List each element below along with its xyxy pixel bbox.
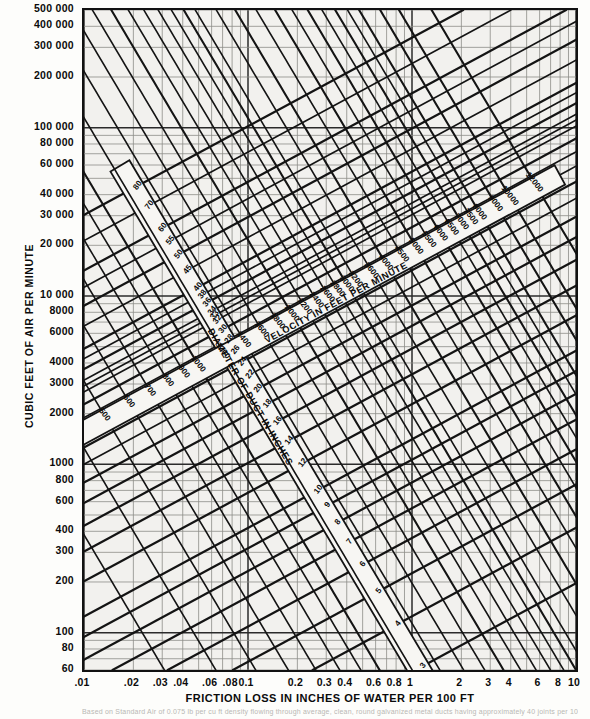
- y-axis-tick: 30 000: [40, 208, 74, 220]
- chart-figure: 6080100200300400600800100020003000400060…: [0, 0, 590, 719]
- x-axis-tick: 0.2: [288, 676, 303, 688]
- y-axis-tick: 400 000: [34, 18, 74, 30]
- x-axis-tick: .03: [153, 676, 168, 688]
- y-axis-tick: 500 000: [34, 2, 74, 14]
- nomograph-svg: 3456789101214161820222426283032333436384…: [84, 10, 576, 670]
- y-axis-tick: 2000: [49, 406, 74, 418]
- y-axis-title: CUBIC FEET OF AIR PER MINUTE: [23, 211, 35, 461]
- x-axis-tick: .08: [222, 676, 237, 688]
- y-axis-tick: 40 000: [40, 187, 74, 199]
- y-axis-tick: 60: [62, 662, 74, 674]
- y-axis-tick: 80: [62, 641, 74, 653]
- x-axis-tick: .01: [74, 676, 89, 688]
- y-axis-tick: 6000: [49, 325, 74, 337]
- y-axis-tick: 200: [56, 574, 74, 586]
- x-axis-tick: 0.3: [317, 676, 332, 688]
- x-axis-tick: 3: [485, 676, 491, 688]
- y-axis-tick: 300 000: [34, 39, 74, 51]
- x-axis-tick: .06: [202, 676, 217, 688]
- x-axis-tick: .04: [173, 676, 188, 688]
- y-axis-tick: 3000: [49, 376, 74, 388]
- y-axis-tick: 4000: [49, 355, 74, 367]
- x-axis-tick: 4: [506, 676, 512, 688]
- x-axis-tick: .02: [124, 676, 139, 688]
- y-axis-tick: 800: [56, 473, 74, 485]
- x-axis-tick: 6: [535, 676, 541, 688]
- plot-canvas: 3456789101214161820222426283032333436384…: [84, 10, 576, 670]
- y-axis-tick: 20 000: [40, 237, 74, 249]
- y-axis-tick: 8000: [49, 304, 74, 316]
- y-axis-tick: 100 000: [34, 120, 74, 132]
- x-axis-tick: 0.6: [366, 676, 381, 688]
- x-axis-tick: 0.1: [238, 676, 253, 688]
- x-axis-tick: 8: [555, 676, 561, 688]
- x-axis-title: FRICTION LOSS IN INCHES OF WATER PER 100…: [82, 692, 578, 704]
- y-axis-tick: 80 000: [40, 136, 74, 148]
- x-axis-tick: 1: [407, 676, 413, 688]
- x-axis-tick: 0.8: [386, 676, 401, 688]
- y-axis-tick: 1000: [49, 456, 74, 468]
- y-axis-tick: 60 000: [40, 157, 74, 169]
- y-axis-tick: 200 000: [34, 69, 74, 81]
- chart-footnote: Based on Standard Air of 0.075 lb per cu…: [82, 708, 578, 718]
- y-axis-tick: 400: [56, 523, 74, 535]
- y-axis-tick-labels: 6080100200300400600800100020003000400060…: [0, 0, 78, 719]
- x-axis-tick: 0.4: [337, 676, 352, 688]
- y-axis-tick: 10 000: [40, 288, 74, 300]
- y-axis-tick: 600: [56, 494, 74, 506]
- x-axis-tick: 10: [568, 676, 580, 688]
- x-axis-tick: 2: [456, 676, 462, 688]
- plot-area: 3456789101214161820222426283032333436384…: [82, 8, 578, 672]
- y-axis-tick: 100: [56, 625, 74, 637]
- y-axis-tick: 300: [56, 544, 74, 556]
